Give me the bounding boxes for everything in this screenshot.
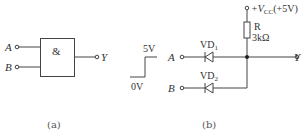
waveform-high-label: 5V xyxy=(143,43,156,54)
resistor-value-label: 3kΩ xyxy=(252,32,269,43)
input-b-terminal xyxy=(15,65,19,69)
caption-a: (a) xyxy=(47,119,61,130)
waveform-low-label: 0V xyxy=(131,81,144,92)
input-b-label: B xyxy=(5,61,12,73)
and-gate-diagram: A B & Y 5V 0V A B VD1 VD2 +VCC(+5V) R 3k… xyxy=(0,0,302,140)
resistor-r xyxy=(244,22,250,38)
junction-dot xyxy=(245,55,249,59)
circuit-input-a-terminal xyxy=(180,55,184,59)
caption-b: (b) xyxy=(202,119,216,130)
circuit-input-b-terminal xyxy=(180,86,184,90)
resistor-name-label: R xyxy=(254,21,261,32)
circuit-input-b-label: B xyxy=(168,82,175,94)
output-y-terminal xyxy=(95,55,99,59)
output-y-label: Y xyxy=(101,51,109,63)
diode-vd2 xyxy=(205,83,213,93)
vd2-label: VD2 xyxy=(200,70,218,83)
circuit-output-y-label: Y xyxy=(294,51,302,63)
step-waveform xyxy=(130,57,157,77)
input-a-terminal xyxy=(15,45,19,49)
circuit-input-a-label: A xyxy=(167,51,175,63)
input-a-label: A xyxy=(4,41,12,53)
vd1-label: VD1 xyxy=(200,39,218,52)
diode-vd1 xyxy=(205,52,213,62)
vcc-terminal xyxy=(245,6,249,10)
vcc-label: +VCC(+5V) xyxy=(251,3,298,16)
and-gate-symbol: & xyxy=(52,45,61,57)
